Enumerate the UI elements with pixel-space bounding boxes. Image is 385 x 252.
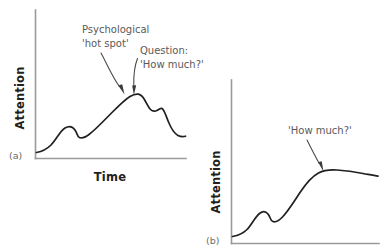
- panel-a-annotation-question: Question: 'How much?': [132, 45, 204, 95]
- annotation-question-line2: 'How much?': [140, 59, 204, 70]
- annotation-hot-spot-leader: [101, 53, 119, 86]
- annotation-hot-spot-line1: Psychological: [82, 24, 149, 35]
- annotation-how-much-arrowhead: [318, 161, 323, 171]
- annotation-hot-spot-line2: 'hot spot': [82, 38, 129, 49]
- panel-a-y-axis-label: Attention: [13, 66, 27, 129]
- annotation-how-much-leader: [307, 140, 319, 163]
- annotation-question-line1: Question:: [140, 45, 188, 56]
- two-panel-attention-figure: Attention Time (a) Psychological 'hot sp…: [0, 0, 385, 252]
- panel-b-annotation-how-much: 'How much?': [288, 125, 352, 172]
- annotation-hot-spot-arrowhead: [118, 84, 124, 94]
- panel-b: Attention (b) 'How much?': [206, 80, 379, 246]
- panel-a-label: (a): [9, 150, 22, 161]
- panel-b-label: (b): [206, 235, 219, 246]
- annotation-how-much-line1: 'How much?': [288, 125, 352, 136]
- panel-a-attention-curve: [37, 94, 186, 152]
- annotation-question-leader: [134, 59, 138, 87]
- panel-b-attention-curve: [233, 170, 379, 237]
- panel-b-y-axis-label: Attention: [209, 150, 223, 213]
- panel-a: Attention Time (a) Psychological 'hot sp…: [9, 10, 204, 184]
- panel-a-x-axis-label: Time: [94, 170, 126, 184]
